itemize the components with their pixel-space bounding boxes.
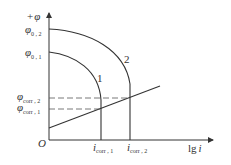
polarization-diagram: +φ φ0 , 2 φ0 , 1 φcorr , 2 φcorr , 1 O i…	[0, 0, 231, 165]
x-axis-label: lgi	[188, 142, 202, 154]
curve-1-label: 1	[97, 72, 103, 84]
origin-label: O	[38, 137, 46, 149]
anodic-line	[49, 86, 160, 128]
y-axis-label: +φ	[27, 10, 40, 22]
y-tick-phi-0-2: φ0 , 2	[25, 23, 42, 37]
curve-2-label: 2	[124, 53, 130, 65]
x-tick-i-corr-2: icorr , 2	[127, 141, 147, 154]
curve-1	[49, 52, 101, 140]
x-tick-i-corr-1: icorr , 1	[93, 141, 113, 154]
y-tick-phi-0-1: φ0 , 1	[25, 46, 42, 60]
